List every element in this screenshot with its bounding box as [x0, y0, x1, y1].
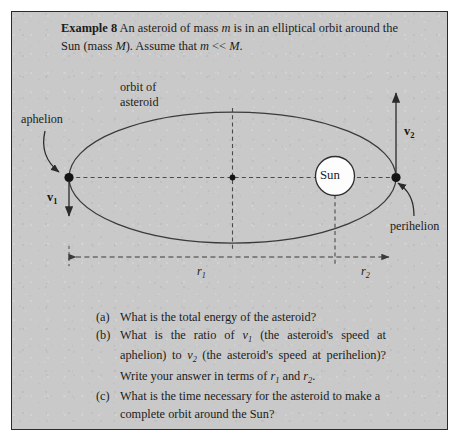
orbit-label-line1: orbit of	[120, 80, 156, 94]
question-list: (a) What is the total energy of the aste…	[96, 308, 386, 423]
r1-symbol: r	[197, 264, 202, 278]
r2-subscript: 2	[366, 271, 370, 280]
perihelion-leader-line	[398, 183, 414, 216]
question-marker-b: (b)	[96, 326, 120, 344]
orbit-label-line2: asteroid	[120, 95, 159, 109]
question-item-b: (b) What is the ratio of v1 (the asteroi…	[96, 326, 386, 387]
qb-v1-subscript: 1	[248, 335, 252, 344]
question-item-a: (a) What is the total energy of the aste…	[96, 308, 386, 326]
v1-subscript: 1	[53, 197, 57, 206]
r1-label: r1	[197, 264, 206, 279]
question-text-c: What is the time necessary for the aster…	[120, 387, 386, 423]
r2-symbol: r	[361, 264, 366, 278]
qb-r2-subscript: 2	[308, 376, 312, 385]
qb-line2-a: aphelion) to	[120, 348, 187, 362]
qb-line1-b: (the asteroid's speed at	[252, 328, 386, 342]
v1-label: v1	[47, 190, 57, 205]
qb-r1-subscript: 1	[275, 376, 279, 385]
question-text-a: What is the total energy of the asteroid…	[120, 308, 386, 326]
orbit-label: orbit ofasteroid	[120, 80, 159, 109]
figure-page: Example 8 An asteroid of mass m is in an…	[0, 0, 468, 447]
ellipse-center-dot	[230, 175, 236, 181]
v2-label: v2	[404, 124, 414, 139]
qb-line3-c: .	[312, 369, 315, 383]
qb-line2-b: (the asteroid's speed at perihelion)?	[197, 348, 386, 362]
perihelion-point-dot	[391, 173, 400, 182]
question-text-b: What is the ratio of v1 (the asteroid's …	[120, 326, 386, 387]
qb-line3-b: and	[279, 369, 303, 383]
qb-v2-subscript: 2	[193, 355, 197, 364]
qb-v2-symbol: v	[187, 348, 192, 362]
v2-subscript: 2	[410, 131, 414, 140]
r1-subscript: 1	[202, 271, 206, 280]
aphelion-leader-line	[44, 131, 59, 172]
question-marker-c: (c)	[96, 387, 120, 405]
aphelion-point-dot	[64, 173, 73, 182]
question-marker-a: (a)	[96, 308, 120, 326]
qc-line1: What is the time necessary for the aster…	[120, 389, 372, 403]
r2-label: r2	[361, 264, 370, 279]
perihelion-label: perihelion	[390, 219, 439, 234]
qb-line1-a: What is the ratio of	[120, 328, 243, 342]
aphelion-label: aphelion	[21, 112, 63, 127]
sun-label: Sun	[320, 168, 340, 183]
qb-line3-a: Write your answer in terms of	[120, 369, 270, 383]
question-item-c: (c) What is the time necessary for the a…	[96, 387, 386, 423]
